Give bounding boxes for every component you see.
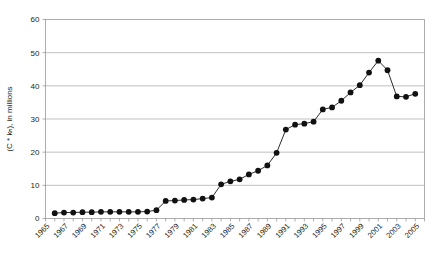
data-point [357,82,363,88]
data-point [181,197,187,203]
x-tick-label: 2003 [384,222,402,240]
y-tick-label: 20 [31,148,40,157]
data-point [98,209,104,215]
x-tick-label: 2001 [366,222,384,240]
x-tick-label: 1965 [33,222,51,240]
data-point [117,209,123,215]
data-point [144,209,150,215]
line-chart: 0102030405060(C * kₕ), in millions196519… [0,0,436,264]
data-point [135,209,141,215]
data-point [375,58,381,64]
y-tick-label: 50 [31,49,40,58]
data-point [412,91,418,97]
data-point [61,210,67,216]
data-point [366,70,372,76]
x-tick-label: 1971 [89,222,107,240]
x-tick-label: 1979 [163,222,181,240]
x-tick-label: 2005 [403,222,421,240]
data-point [227,178,233,184]
x-tick-label: 1977 [144,222,162,240]
x-tick-label: 1969 [70,222,88,240]
y-tick-label: 30 [31,115,40,124]
y-tick-label: 0 [35,214,40,223]
x-tick-label: 1997 [329,222,347,240]
data-point [329,104,335,110]
y-axis-title: (C * kₕ), in millions [5,86,14,151]
data-point [52,210,58,216]
y-tick-label: 10 [31,181,40,190]
data-point [320,106,326,112]
data-point [274,150,280,156]
chart-canvas: 0102030405060(C * kₕ), in millions196519… [0,0,436,264]
y-tick-label: 40 [31,82,40,91]
data-point [348,90,354,96]
data-point [283,127,289,133]
data-point [246,171,252,177]
data-point [311,119,317,125]
data-point [107,209,113,215]
y-tick-label: 60 [31,15,40,24]
data-point [126,209,132,215]
x-tick-label: 1989 [255,222,273,240]
data-point [403,94,409,100]
data-point [89,209,95,215]
data-markers [52,58,418,216]
y-axis: 0102030405060 [31,15,46,223]
data-point [163,198,169,204]
data-point [154,207,160,213]
x-tick-label: 1983 [199,222,217,240]
x-tick-label: 1975 [126,222,144,240]
x-tick-label: 1973 [107,222,125,240]
data-point [209,195,215,201]
data-point [338,98,344,104]
data-point [191,197,197,203]
data-point [80,209,86,215]
data-point [172,198,178,204]
data-point [255,168,261,174]
x-tick-label: 1987 [236,222,254,240]
x-tick-label: 1981 [181,222,199,240]
data-point [292,122,298,128]
data-point [385,67,391,73]
data-point [70,210,76,216]
x-tick-label: 1985 [218,222,236,240]
data-point [394,94,400,100]
data-point [200,196,206,202]
x-tick-label: 1967 [52,222,70,240]
data-point [301,121,307,127]
data-point [218,181,224,187]
x-axis: 1965196719691971197319751977197919811983… [33,219,424,240]
x-tick-label: 1993 [292,222,310,240]
data-point [237,176,243,182]
x-tick-label: 1995 [310,222,328,240]
x-tick-label: 1991 [273,222,291,240]
data-point [264,163,270,169]
x-tick-label: 1999 [347,222,365,240]
